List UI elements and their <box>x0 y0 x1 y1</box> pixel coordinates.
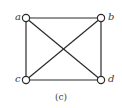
figure-caption: (c) <box>0 93 122 102</box>
vertex-a <box>22 14 29 21</box>
vertex-label-b: b <box>108 12 114 22</box>
vertex-d <box>97 76 104 83</box>
vertex-b <box>97 14 104 21</box>
vertex-label-a: a <box>15 12 21 22</box>
vertex-label-d: d <box>108 74 114 84</box>
vertex-label-c: c <box>15 74 21 84</box>
vertex-c <box>22 76 29 83</box>
edges <box>26 18 101 80</box>
